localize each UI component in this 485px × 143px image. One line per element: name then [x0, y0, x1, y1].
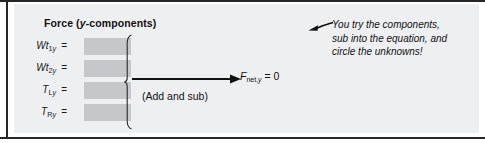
equals-sign: =: [61, 84, 67, 95]
component-subscript-axis: y: [52, 88, 56, 97]
net-force-subscript-prefix: net,: [246, 76, 258, 83]
component-label: TRy: [41, 106, 56, 119]
panel-title-prefix: Force (: [44, 17, 80, 29]
note-pointer-arrow-icon: [308, 21, 334, 33]
instructor-note: You try the components, sub into the equ…: [332, 18, 447, 59]
panel-title: Force (y-components): [44, 17, 156, 29]
equals-sign: =: [61, 62, 67, 73]
net-force-result: Fnet,y = 0: [240, 70, 279, 83]
left-spine-rule: [6, 0, 8, 139]
add-and-sub-label: (Add and sub): [142, 90, 208, 102]
net-force-subscript: net,y: [246, 76, 261, 83]
top-rule: [0, 0, 485, 2]
component-label: TLy: [42, 84, 56, 97]
component-subscript-axis: y: [52, 110, 56, 119]
bottom-rule: [0, 137, 485, 139]
component-subscript-axis: y: [52, 66, 56, 75]
equals-sign: =: [61, 40, 67, 51]
component-symbol: Wt: [36, 40, 48, 51]
component-symbol: Wt: [36, 62, 48, 73]
component-label: Wt2y: [36, 62, 56, 75]
component-rows: Wt1y = Wt2y = TLy = TRy =: [44, 37, 124, 125]
equals-sign: =: [61, 106, 67, 117]
component-row: Wt1y =: [44, 37, 124, 59]
force-panel: Force (y-components) Wt1y = Wt2y = TLy =…: [14, 4, 479, 133]
instructor-note-line-1: You try the components,: [332, 18, 447, 32]
component-label: Wt1y: [36, 40, 56, 53]
worked-example-figure: Force (y-components) Wt1y = Wt2y = TLy =…: [0, 0, 485, 143]
component-row: TLy =: [44, 81, 124, 103]
instructor-note-line-2: sub into the equation, and: [332, 32, 447, 46]
component-row: TRy =: [44, 103, 124, 125]
component-subscript-axis: y: [52, 44, 56, 53]
net-force-equals-zero: = 0: [262, 70, 280, 82]
instructor-note-line-3: circle the unknowns!: [332, 45, 447, 59]
panel-title-suffix: -components): [86, 17, 157, 29]
component-row: Wt2y =: [44, 59, 124, 81]
rightward-arrow-icon: [132, 74, 242, 84]
